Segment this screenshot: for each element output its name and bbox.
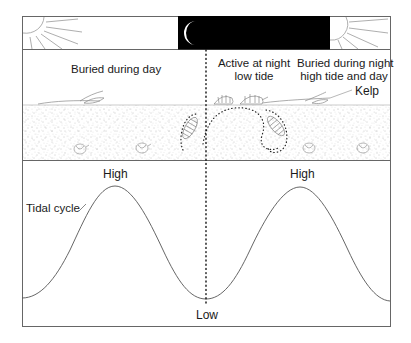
label-high-left: High [103,168,128,181]
top-time-band [22,16,391,50]
diagram-canvas [0,0,411,343]
night-band [178,16,330,50]
label-buried-during-night: Buried during night high tide and day [297,57,391,83]
kelp-right [262,90,352,104]
label-buried-during-day: Buried during day [71,63,161,76]
label-tidal-cycle: Tidal cycle [26,202,80,215]
sun-icon-left [23,17,82,49]
label-low: Low [196,309,218,322]
label-buried-night-line1: Buried during night [297,57,391,70]
label-kelp: Kelp [355,85,379,98]
label-active-line1: Active at night [214,57,294,70]
amphipod-active-surface [214,94,268,104]
label-buried-night-line2: high tide and day [297,70,391,83]
tidal-cycle-pointer [79,204,86,211]
kelp-left [38,91,104,104]
label-active-at-night: Active at night low tide [214,57,294,83]
label-high-right: High [290,168,315,181]
sun-icon-right [330,17,388,49]
label-active-line2: low tide [214,70,294,83]
